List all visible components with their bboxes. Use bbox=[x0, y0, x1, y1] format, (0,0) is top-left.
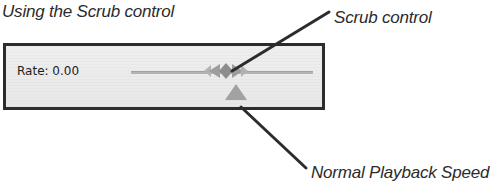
figure-title: Using the Scrub control bbox=[2, 1, 302, 23]
callout-label-normal-playback-speed: Normal Playback Speed bbox=[311, 162, 489, 183]
figure-root: Using the Scrub control Rate: 0.00 bbox=[0, 0, 502, 191]
triangle-marker-icon bbox=[224, 83, 248, 101]
rate-readout: Rate: 0.00 bbox=[17, 64, 79, 78]
scrub-handle-icon[interactable] bbox=[203, 61, 249, 81]
callout-label-scrub-control: Scrub control bbox=[334, 7, 432, 28]
panel-background: Rate: 0.00 bbox=[6, 46, 322, 107]
scrub-control-panel: Rate: 0.00 bbox=[3, 43, 325, 110]
